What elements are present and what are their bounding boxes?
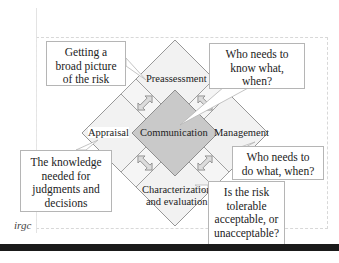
communication-label: Communication <box>140 127 208 138</box>
callout-line: Who needs to <box>210 48 304 62</box>
preassessment-label: Preassessment <box>146 73 207 84</box>
callout-line: do what, when? <box>233 165 323 179</box>
characterization-callout: Is the risk tolerable acceptable, or una… <box>208 181 285 245</box>
bottom-rule <box>0 244 339 251</box>
callout-line: judgments and <box>21 183 111 197</box>
preassessment-callout-tail <box>126 58 146 80</box>
management-callout: Who needs to do what, when? <box>232 146 324 180</box>
callout-line: broad picture <box>47 60 125 74</box>
callout-line: of the risk <box>47 73 125 87</box>
callout-line: Getting a <box>47 46 125 60</box>
irgc-logo: irgc <box>14 219 31 231</box>
callout-line: Who needs to <box>233 151 323 165</box>
callout-line: The knowledge <box>21 156 111 170</box>
preassessment-callout: Getting a broad picture of the risk <box>46 41 126 86</box>
appraisal-callout: The knowledge needed for judgments and d… <box>20 150 112 212</box>
callout-line: acceptable, or <box>209 213 284 227</box>
callout-line: unacceptable? <box>209 227 284 241</box>
characterization-label: Characterization and evaluation <box>142 184 211 208</box>
appraisal-label: Appraisal <box>88 127 129 138</box>
callout-line: when? <box>210 75 304 89</box>
callout-line: Is the risk <box>209 186 284 200</box>
characterization-label-line1: Characterization <box>142 184 211 196</box>
characterization-label-line2: and evaluation <box>142 196 211 208</box>
callout-line: tolerable <box>209 200 284 214</box>
callout-line: know what, <box>210 62 304 76</box>
diagram-canvas: Preassessment Appraisal Management Chara… <box>0 0 339 263</box>
callout-line: needed for <box>21 170 111 184</box>
communication-callout: Who needs to know what, when? <box>209 43 305 89</box>
callout-line: decisions <box>21 197 111 211</box>
management-label: Management <box>214 127 269 138</box>
